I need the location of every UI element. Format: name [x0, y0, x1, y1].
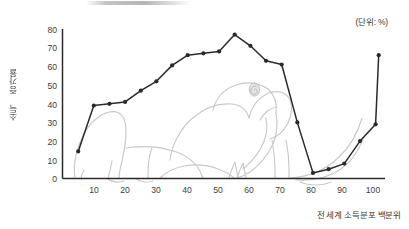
data-point	[280, 62, 284, 66]
elephant-eye-icon	[249, 83, 259, 96]
x-tick-label: 60	[244, 185, 254, 195]
data-point	[139, 89, 143, 93]
x-tick-label: 90	[337, 185, 347, 195]
data-point	[154, 79, 158, 83]
y-tick-label: 30	[47, 118, 57, 128]
y-tick-label: 10	[47, 156, 57, 166]
y-tick-label: 0	[52, 174, 57, 184]
data-point	[295, 120, 299, 124]
x-tick-label: 10	[89, 185, 99, 195]
x-tick-label: 30	[151, 185, 161, 195]
x-tick-label: 50	[213, 185, 223, 195]
data-point	[107, 102, 111, 106]
y-tick-label: 20	[47, 137, 57, 147]
y-tick-label: 60	[47, 62, 57, 72]
data-point	[374, 122, 378, 126]
data-point	[123, 100, 127, 104]
y-tick-label: 50	[47, 81, 57, 91]
x-tick-label: 20	[120, 185, 130, 195]
data-point	[311, 171, 315, 175]
data-point	[217, 49, 221, 53]
x-tick-label: 100	[366, 185, 381, 195]
y-tick-labels: 80 70 60 50 40 30 20 10 0	[47, 25, 57, 185]
y-tick-label: 80	[47, 25, 57, 35]
plot-area: 80 70 60 50 40 30 20 10 0 10 20 30 40 50…	[0, 0, 409, 229]
y-tick-label: 70	[47, 43, 57, 53]
chart-container: (단위: %) 소득 증가율 전 세계 소득분포 백분위	[0, 0, 409, 229]
data-point	[186, 53, 190, 57]
x-tick-label: 70	[275, 185, 285, 195]
data-point	[264, 59, 268, 63]
data-point	[76, 149, 80, 153]
data-point	[92, 104, 96, 108]
data-point	[377, 53, 381, 57]
x-tick-labels: 10 20 30 40 50 60 70 80 90 100	[89, 185, 380, 195]
data-point	[201, 51, 205, 55]
x-tick-label: 80	[306, 185, 316, 195]
data-point	[358, 139, 362, 143]
data-point	[233, 33, 237, 37]
data-point	[248, 44, 252, 48]
y-tick-label: 40	[47, 100, 57, 110]
x-tick-label: 40	[182, 185, 192, 195]
data-point	[342, 162, 346, 166]
data-point	[327, 167, 331, 171]
elephant-outline-icon	[74, 83, 363, 185]
data-point	[170, 63, 174, 67]
